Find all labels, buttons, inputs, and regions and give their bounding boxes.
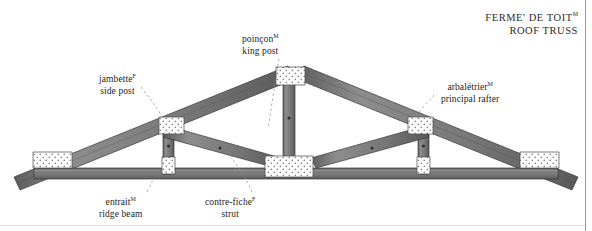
label-principal-rafter: arbalétrierM principal rafter bbox=[441, 79, 499, 105]
label-king-post-french: poinçonM bbox=[242, 31, 279, 46]
page-title-french: FERME' DE TOITM bbox=[485, 8, 578, 24]
apex-gusset bbox=[276, 67, 305, 85]
right-sidepost-top-gusset bbox=[408, 117, 433, 134]
center-bottom-gusset bbox=[265, 156, 313, 177]
left-sidepost-bottom-gusset bbox=[162, 157, 175, 174]
label-strut-english: strut bbox=[205, 209, 255, 221]
leader-ridge-beam bbox=[147, 178, 154, 192]
label-side-post-english: side post bbox=[99, 86, 136, 98]
label-king-post: poinçonM king post bbox=[242, 31, 279, 57]
left-sidepost-top-gusset bbox=[159, 117, 184, 134]
right-eave-gusset bbox=[520, 152, 559, 168]
king-post bbox=[283, 78, 295, 168]
label-strut-french: contre-ficheF bbox=[205, 194, 255, 209]
right-sidepost-bottom-gusset bbox=[417, 157, 430, 174]
label-principal-rafter-french: arbalétrierM bbox=[441, 79, 499, 94]
label-side-post: jambetteF side post bbox=[99, 71, 136, 97]
page-title-english: ROOF TRUSS bbox=[485, 24, 578, 37]
page-title: FERME' DE TOITM ROOF TRUSS bbox=[485, 8, 578, 37]
leader-side-post bbox=[141, 87, 163, 118]
illustration-page: FERME' DE TOITM ROOF TRUSS poinçonM king… bbox=[0, 0, 592, 231]
label-king-post-english: king post bbox=[242, 46, 279, 58]
label-side-post-french: jambetteF bbox=[99, 71, 136, 86]
left-eave-gusset bbox=[33, 152, 72, 168]
label-ridge-beam-english: ridge beam bbox=[99, 209, 142, 221]
label-principal-rafter-english: principal rafter bbox=[441, 94, 499, 106]
label-strut: contre-ficheF strut bbox=[205, 194, 255, 220]
label-ridge-beam-french: entraitM bbox=[99, 194, 142, 209]
label-ridge-beam: entraitM ridge beam bbox=[99, 194, 142, 220]
